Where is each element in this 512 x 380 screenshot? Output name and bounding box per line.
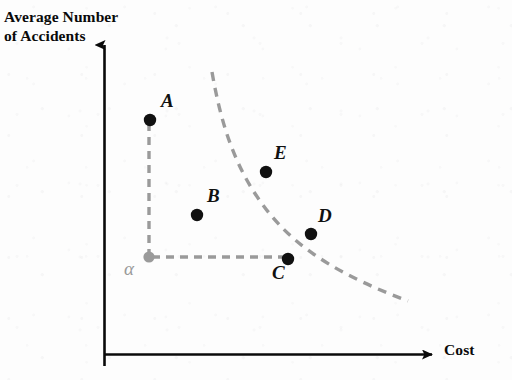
corner-point-alpha-marker	[143, 251, 154, 262]
data-point-b-label: B	[207, 185, 220, 207]
data-point-e-label: E	[274, 142, 287, 164]
indifference-curve	[212, 72, 408, 301]
y-axis-label: Average Number of Accidents	[4, 8, 118, 46]
data-point-c-label: C	[272, 262, 285, 284]
data-point-a-marker[interactable]	[144, 114, 156, 126]
axis-group	[105, 45, 433, 366]
data-point-d-marker[interactable]	[305, 228, 317, 240]
data-point-group	[144, 114, 317, 265]
data-point-b-marker[interactable]	[191, 209, 203, 221]
data-point-e-marker[interactable]	[260, 166, 272, 178]
accident-cost-scatter-chart: Average Number of Accidents Cost α ABCDE	[0, 0, 512, 380]
corner-point-alpha-label: α	[124, 258, 134, 280]
indifference-curve-group	[212, 72, 408, 301]
data-point-d-label: D	[318, 205, 332, 227]
x-axis-label: Cost	[444, 341, 475, 360]
plot-canvas	[0, 0, 512, 380]
data-point-a-label: A	[161, 90, 174, 112]
